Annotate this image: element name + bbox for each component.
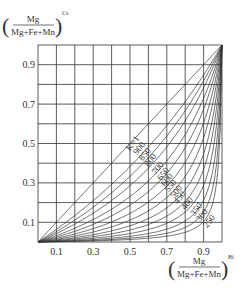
y-tick-label: 0.7 bbox=[23, 99, 36, 110]
y-label-denominator: Mg+Fe+Mn bbox=[11, 27, 56, 37]
y-label-superscript: Cs bbox=[62, 10, 69, 16]
x-tick-label: 0.3 bbox=[87, 246, 100, 257]
y-tick-label: 0.3 bbox=[23, 177, 36, 188]
y-tick-label: 0.1 bbox=[23, 217, 36, 228]
y-tick-labels: 0.10.30.50.70.9 bbox=[23, 59, 36, 228]
y-tick-label: 0.5 bbox=[23, 138, 36, 149]
svg-text:): ) bbox=[55, 13, 62, 38]
svg-text:(: ( bbox=[168, 256, 175, 281]
y-tick-label: 0.9 bbox=[23, 59, 36, 70]
svg-text:(: ( bbox=[2, 13, 9, 38]
y-axis-label: ( Mg Mg+Fe+Mn ) Cs bbox=[2, 10, 69, 38]
y-label-numerator: Mg bbox=[27, 14, 40, 24]
x-label-superscript: Bi bbox=[228, 254, 234, 260]
x-tick-label: 0.1 bbox=[50, 246, 63, 257]
chart: K=19008508007006506005505004504003503002… bbox=[0, 0, 245, 293]
x-label-denominator: Mg+Fe+Mn bbox=[177, 269, 222, 279]
x-tick-labels: 0.10.30.50.70.9 bbox=[50, 246, 210, 257]
x-label-numerator: Mg bbox=[193, 256, 206, 266]
x-axis-label: ( Mg Mg+Fe+Mn ) Bi bbox=[168, 254, 234, 281]
x-tick-label: 0.5 bbox=[124, 246, 137, 257]
